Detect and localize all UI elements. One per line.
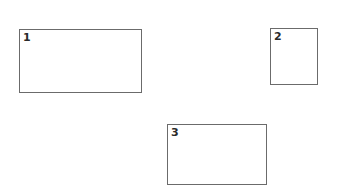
box-1-label: 1 [23, 32, 31, 44]
box-3-label: 3 [171, 127, 179, 139]
box-1: 1 [19, 29, 142, 93]
box-2-label: 2 [274, 31, 282, 43]
box-2: 2 [270, 28, 318, 85]
box-3: 3 [167, 124, 267, 185]
